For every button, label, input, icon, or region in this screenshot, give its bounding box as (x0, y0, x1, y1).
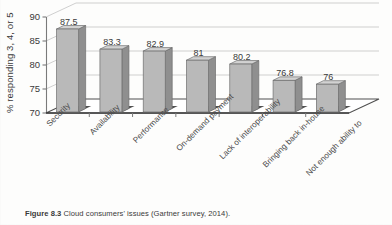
y-axis-title: % responding 3, 4, or 5 (4, 12, 15, 113)
bar-value-label: 82.9 (146, 39, 164, 49)
y-tick-label: 70 (29, 107, 40, 118)
bar-value-label: 76 (323, 72, 333, 82)
y-tick-label: 90 (29, 11, 40, 22)
bar (230, 64, 252, 112)
bar-value-label: 83.3 (103, 37, 121, 47)
bar-chart: % responding 3, 4, or 5 7075808590 87.58… (0, 0, 392, 225)
bar-value-label: 87.5 (60, 17, 78, 27)
figure-number: Figure 8.3 (25, 209, 61, 218)
bar-value-label: 80.2 (233, 52, 251, 62)
bar (143, 51, 165, 112)
bar-value-label: 81 (193, 48, 203, 58)
y-axis-ticks: 7075808590 (29, 11, 46, 118)
bars (57, 26, 346, 113)
y-tick-label: 80 (29, 59, 40, 70)
figure-caption: Figure 8.3 Cloud consumers' issues (Gart… (25, 209, 385, 218)
bar-value-label: 76.8 (276, 68, 294, 78)
caption-text: Cloud consumers' issues (Gartner survey,… (64, 209, 231, 218)
category-label: Not enough ability to (304, 118, 363, 177)
bar (100, 49, 122, 112)
bar (57, 29, 79, 112)
y-tick-label: 85 (29, 35, 40, 46)
y-tick-label: 75 (29, 83, 40, 94)
figure-container: % responding 3, 4, or 5 7075808590 87.58… (0, 0, 392, 225)
bar (187, 60, 209, 112)
